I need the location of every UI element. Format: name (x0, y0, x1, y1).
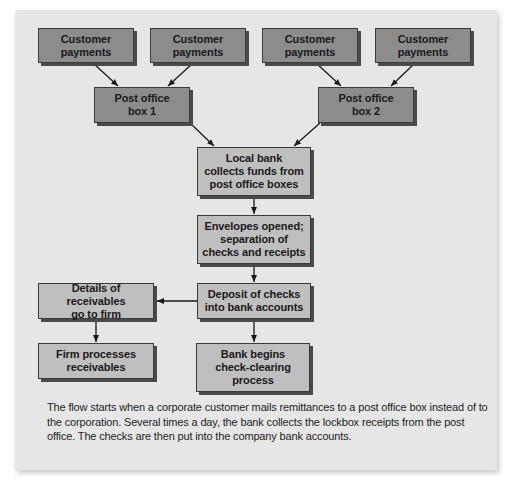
post-office-box-2: Post office box 2 (318, 87, 414, 123)
details-receivables-box: Details of receivables go to firm (38, 283, 154, 319)
arrow-cp3-po2 (316, 63, 341, 86)
customer-payments-box-1: Customer payments (38, 28, 134, 63)
arrow-cp4-po2 (391, 63, 415, 86)
arrow-cp1-po1 (93, 63, 118, 86)
firm-processes-box: Firm processes receivables (38, 343, 154, 379)
arrow-po1-bank (190, 123, 214, 146)
local-bank-box: Local bank collects funds from post offi… (197, 147, 311, 196)
customer-payments-box-4: Customer payments (375, 28, 471, 63)
customer-payments-box-3: Customer payments (262, 28, 358, 63)
arrow-po2-bank (294, 123, 320, 146)
arrow-cp2-po1 (168, 63, 193, 86)
envelopes-opened-box: Envelopes opened; separation of checks a… (197, 215, 311, 264)
post-office-box-1: Post office box 1 (94, 87, 190, 123)
figure-caption: The flow starts when a corporate custome… (47, 400, 492, 444)
bank-check-clearing-box: Bank begins check-clearing process (196, 343, 310, 392)
customer-payments-box-2: Customer payments (150, 28, 246, 63)
deposit-checks-box: Deposit of checks into bank accounts (197, 283, 311, 319)
